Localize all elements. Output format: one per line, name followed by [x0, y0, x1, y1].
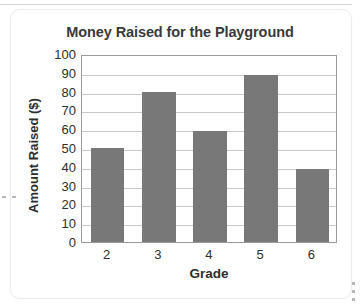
- y-tick-label: 40: [44, 161, 76, 175]
- y-tick-label: 100: [44, 48, 76, 62]
- y-tick-label: 50: [44, 142, 76, 156]
- chart-page: Money Raised for the Playground Amount R…: [0, 0, 360, 307]
- bar: [142, 92, 176, 242]
- bar: [193, 131, 227, 242]
- y-axis-tick-labels: 1009080706050403020100: [44, 48, 76, 250]
- x-tick-label: 4: [183, 247, 234, 262]
- y-tick-label: 10: [44, 217, 76, 231]
- plot-area: [81, 55, 337, 243]
- y-tick-label: 90: [44, 67, 76, 81]
- y-tick-label: 0: [44, 236, 76, 250]
- y-tick-label: 60: [44, 123, 76, 137]
- scan-artifact-dot: [352, 298, 355, 301]
- x-tick-label: 5: [235, 247, 286, 262]
- scan-artifact-mark: [2, 196, 6, 198]
- y-tick-label: 80: [44, 86, 76, 100]
- x-tick-label: 6: [286, 247, 337, 262]
- scan-artifact-line: [0, 4, 352, 5]
- scan-artifact-dot: [352, 290, 355, 293]
- scan-artifact-dot: [352, 282, 355, 285]
- x-axis-title: Grade: [81, 266, 337, 281]
- y-tick-label: 70: [44, 104, 76, 118]
- y-tick-label: 20: [44, 198, 76, 212]
- bar: [91, 148, 125, 242]
- bar: [296, 169, 330, 242]
- scan-artifact-mark: [12, 196, 16, 198]
- y-tick-label: 30: [44, 180, 76, 194]
- x-tick-label: 2: [81, 247, 132, 262]
- bar: [244, 75, 278, 242]
- x-axis-tick-labels: 23456: [81, 247, 337, 265]
- bars-layer: [82, 56, 336, 242]
- chart-title: Money Raised for the Playground: [0, 24, 360, 40]
- x-tick-label: 3: [132, 247, 183, 262]
- y-axis-title: Amount Raised ($): [26, 61, 41, 251]
